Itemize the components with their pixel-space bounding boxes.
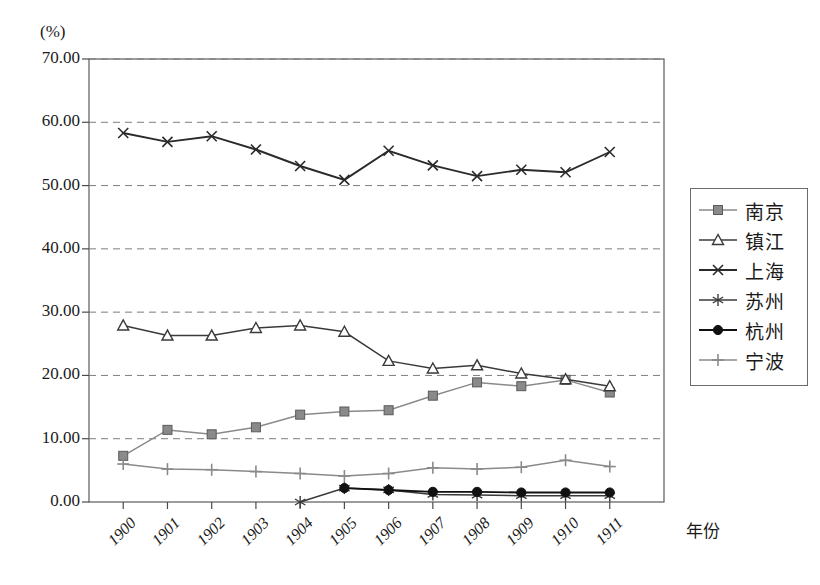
legend-item-南京[interactable]: 南京 [697,195,799,225]
data-point-marker [296,410,305,419]
data-point-marker [473,378,482,387]
series-5 [117,454,616,482]
data-point-marker [384,146,394,156]
y-axis-tick-label: 70.00 [14,48,80,68]
data-point-marker [517,382,526,391]
legend-label: 镇江 [745,227,785,254]
legend-label: 上海 [745,257,785,284]
series-2 [118,128,615,185]
data-point-marker [427,462,439,474]
data-point-marker [428,391,437,400]
data-point-marker [515,461,527,473]
legend-label: 宁波 [745,347,785,374]
data-point-marker [338,470,350,482]
data-point-marker [251,144,261,154]
legend-item-上海[interactable]: 上海 [697,255,799,285]
legend-label: 南京 [745,197,785,224]
legend-label: 杭州 [745,317,785,344]
series-1 [118,320,616,391]
data-point-marker [605,147,615,157]
data-point-marker [472,487,481,496]
data-point-marker [339,175,349,185]
data-point-marker [207,430,216,439]
data-point-marker [428,487,437,496]
data-point-marker [471,463,483,475]
legend-swatch-cross-icon [697,259,739,281]
legend-swatch-plus-icon [697,349,739,371]
series-line [123,325,610,386]
data-point-marker [472,360,483,370]
data-point-marker [295,161,305,171]
y-axis-tick-label: 60.00 [14,111,80,131]
legend-item-苏州[interactable]: 苏州 [697,285,799,315]
y-axis-tick-label: 30.00 [14,301,80,321]
data-point-marker [384,485,393,494]
x-axis-title: 年份 [686,517,720,542]
series-line [123,133,610,180]
legend-swatch-circle-icon [697,319,739,341]
data-point-marker [294,468,306,480]
data-point-marker [561,488,570,497]
data-point-marker [383,355,394,365]
y-axis-tick-label: 10.00 [14,428,80,448]
series-line [123,380,610,456]
legend-label: 苏州 [745,287,785,314]
data-point-marker [560,454,572,466]
data-point-marker [605,488,614,497]
y-axis-tick-label: 50.00 [14,175,80,195]
data-point-marker [340,483,349,492]
data-point-marker [714,206,723,215]
plot-frame [89,59,664,502]
data-point-marker [250,466,262,478]
data-point-marker [517,488,526,497]
legend-swatch-triangle-icon [697,229,739,251]
series-0 [119,375,615,460]
data-point-marker [712,354,724,366]
data-point-marker [340,407,349,416]
y-axis-tick-label: 20.00 [14,364,80,384]
legend-swatch-square-icon [697,199,739,221]
data-point-marker [161,463,173,475]
legend-swatch-asterisk-icon [697,289,739,311]
data-point-marker [604,461,616,473]
data-point-marker [383,468,395,480]
legend-item-宁波[interactable]: 宁波 [697,345,799,375]
chart-container: (%) 0.0010.0020.0030.0040.0050.0060.0070… [0,0,820,585]
data-point-marker [251,423,260,432]
y-axis-tick-label: 40.00 [14,238,80,258]
y-axis-tick-label: 0.00 [14,491,80,511]
data-point-marker [384,406,393,415]
data-point-marker [118,320,129,330]
data-point-marker [163,425,172,434]
legend-item-杭州[interactable]: 杭州 [697,315,799,345]
series-line [123,460,610,476]
data-point-marker [713,325,722,334]
legend-item-镇江[interactable]: 镇江 [697,225,799,255]
data-point-marker [206,464,218,476]
chart-legend: 南京镇江上海苏州杭州宁波 [690,188,808,386]
